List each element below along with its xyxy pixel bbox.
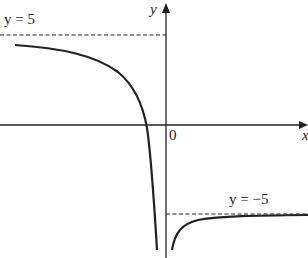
curve-left-branch	[15, 45, 157, 250]
x-axis-label: x	[301, 127, 308, 143]
y-axis-label: y	[148, 1, 157, 17]
asymptote-top-label: y = 5	[4, 11, 35, 27]
function-graph: y = 5 y = −5 y x 0	[0, 0, 308, 258]
origin-label: 0	[169, 127, 177, 143]
curve-right-branch	[172, 215, 308, 250]
y-axis-arrow-icon	[162, 3, 170, 13]
asymptote-bottom-label: y = −5	[229, 191, 268, 207]
